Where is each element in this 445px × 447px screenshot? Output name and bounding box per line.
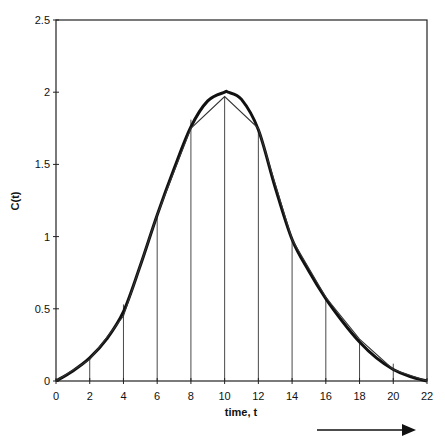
- x-tick-label: 12: [252, 390, 264, 402]
- x-tick-label: 6: [154, 390, 160, 402]
- x-tick-label: 16: [320, 390, 332, 402]
- y-axis-ticks: 00.511.522.5: [35, 14, 59, 387]
- chart: 0246810121416182022 00.511.522.5 time, t…: [0, 0, 445, 447]
- series-trapezoid-polyline: [56, 97, 427, 381]
- y-axis-title: C(t): [9, 191, 21, 210]
- plot-frame: [56, 20, 427, 381]
- y-tick-label: 0: [44, 375, 50, 387]
- time-arrow-head: [402, 424, 416, 436]
- x-tick-label: 18: [353, 390, 365, 402]
- x-tick-label: 4: [120, 390, 126, 402]
- y-tick-label: 2: [44, 86, 50, 98]
- time-arrow: [317, 424, 416, 436]
- plot-border: [56, 20, 427, 381]
- y-tick-label: 1.5: [35, 158, 50, 170]
- ordinate-lines: [90, 97, 394, 381]
- x-axis-title: time, t: [225, 406, 258, 418]
- y-tick-label: 2.5: [35, 14, 50, 26]
- x-tick-label: 2: [87, 390, 93, 402]
- x-tick-label: 10: [219, 390, 231, 402]
- y-tick-label: 1: [44, 231, 50, 243]
- x-tick-label: 14: [286, 390, 298, 402]
- series-smooth-curve: [56, 91, 427, 381]
- x-tick-label: 20: [387, 390, 399, 402]
- y-tick-label: 0.5: [35, 303, 50, 315]
- series-layer: [56, 91, 427, 381]
- x-tick-label: 0: [53, 390, 59, 402]
- x-tick-label: 8: [188, 390, 194, 402]
- x-tick-label: 22: [421, 390, 433, 402]
